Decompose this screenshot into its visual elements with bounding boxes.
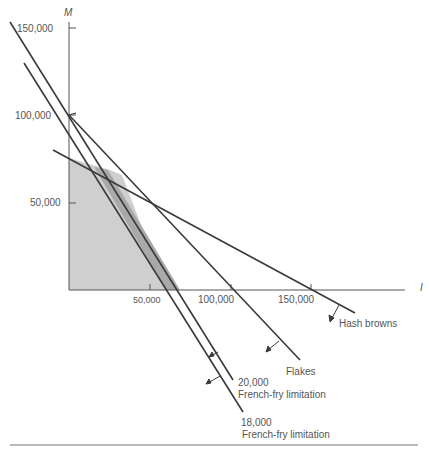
ff-20000-label: French-fry limitation — [238, 389, 326, 401]
y-tick-label-100000: 100,000 — [15, 110, 51, 122]
x-axis-name: I — [420, 282, 423, 294]
flakes-label: Flakes — [286, 366, 315, 378]
lp-diagram — [0, 0, 429, 457]
y-axis-name: M — [64, 7, 72, 19]
ff-18000-line — [24, 63, 243, 412]
ff-18000-label: French-fry limitation — [242, 429, 330, 441]
hash-browns-arrow-icon — [329, 305, 339, 322]
ff-20000-value: 20,000 — [238, 377, 269, 389]
x-tick-label-100000: 100,000 — [198, 294, 234, 306]
ff-18000-arrow-icon — [206, 376, 220, 384]
x-tick-label-50000: 50,000 — [133, 294, 161, 306]
y-tick-label-150000: 150,000 — [17, 23, 53, 35]
y-tick-label-50000: 50,000 — [30, 197, 61, 209]
hash-browns-label: Hash browns — [339, 318, 397, 330]
ff-18000-value: 18,000 — [241, 417, 272, 429]
flakes-arrow-icon — [266, 341, 279, 352]
x-tick-label-150000: 150,000 — [278, 294, 314, 306]
